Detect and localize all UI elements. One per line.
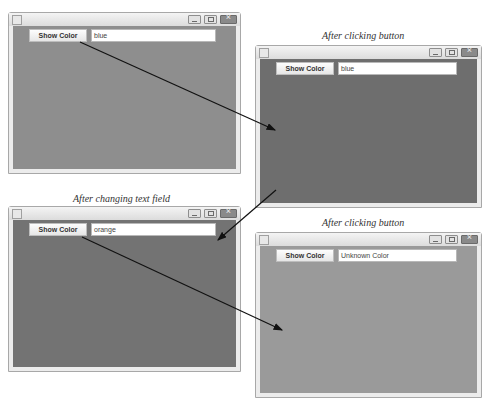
arrow-click-1 — [80, 42, 275, 130]
arrow-change-text — [218, 190, 276, 240]
flow-arrows — [0, 0, 488, 409]
arrow-click-2 — [82, 237, 282, 330]
